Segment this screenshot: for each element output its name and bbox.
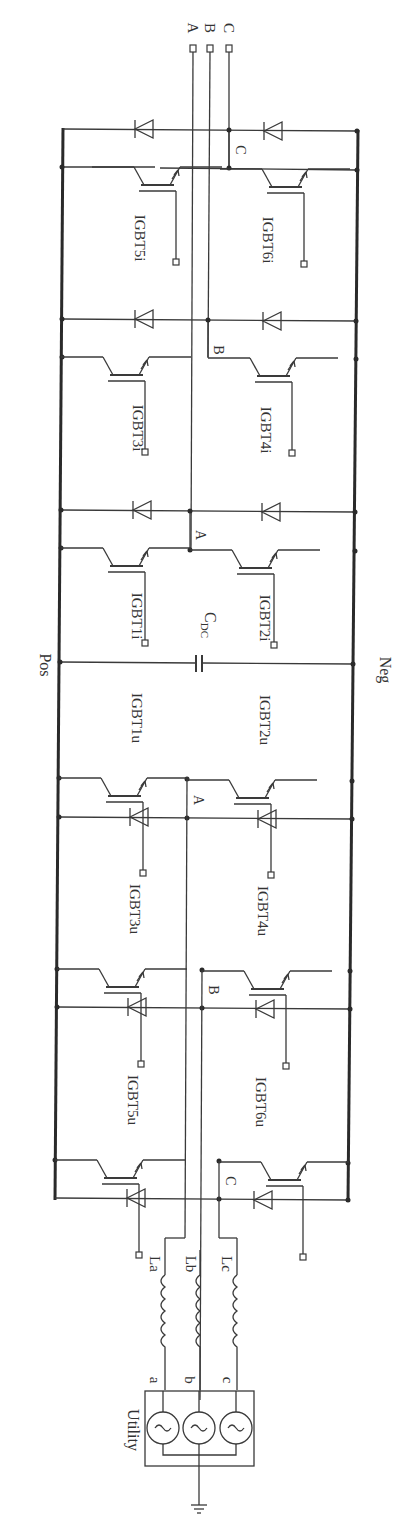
igbt-label: IGBT4i	[258, 407, 274, 454]
igbt-label: IGBT6i	[260, 217, 276, 264]
igbt-icon	[92, 167, 222, 265]
rectifier-leg-b	[55, 967, 353, 1019]
igbt-label: IGBT1i	[129, 593, 145, 640]
phase-label-b: b	[182, 1376, 198, 1384]
igbt-label: IGBT1u	[129, 693, 145, 743]
terminal-b[interactable]	[207, 45, 213, 52]
utility-source	[145, 1391, 254, 1505]
inductor-lc	[233, 1275, 237, 1390]
terminal-label-b: B	[202, 23, 218, 33]
terminal-c[interactable]	[226, 45, 232, 52]
inductor-label-la: La	[147, 1256, 163, 1272]
igbt-label: IGBT3u	[127, 884, 143, 934]
igbt-label: IGBT3i	[130, 405, 146, 452]
node-label-c-rect: C	[223, 1176, 238, 1185]
inductor-label-lc: Lc	[219, 1256, 235, 1272]
capacitor-label: CDC	[199, 612, 219, 638]
node-label-b-rect: B	[206, 985, 221, 994]
node-label-a-inv: A	[193, 530, 208, 541]
phase-label-c: c	[220, 1377, 236, 1384]
inductor-la	[161, 1275, 165, 1390]
igbt-label: IGBT6u	[253, 1077, 269, 1127]
phase-label-a: a	[147, 1377, 163, 1384]
igbt-label: IGBT5i	[132, 215, 148, 262]
inverter-leg-a	[59, 501, 358, 554]
terminal-label-a: A	[185, 23, 201, 34]
igbt-label: IGBT2u	[257, 695, 273, 745]
node-label-b-inv: B	[211, 345, 226, 354]
neg-rail-label: Neg	[376, 657, 394, 684]
converter-schematic: A B C C B A IGBT5i IGBT6i IGBT3i IGBT4i …	[0, 0, 401, 1522]
pos-rail-label: Pos	[37, 653, 54, 676]
inductor-lb	[196, 1275, 200, 1390]
output-lines	[190, 45, 232, 549]
node-label-c-inv: C	[233, 145, 248, 154]
inverter-leg-b	[60, 310, 359, 362]
utility-label: Utility	[124, 1409, 142, 1451]
igbt-label: IGBT5u	[125, 1075, 141, 1125]
inductor-label-lb: Lb	[183, 1256, 199, 1273]
node-label-a-rect: A	[191, 795, 206, 806]
terminal-label-c: C	[221, 23, 237, 33]
ground-icon	[191, 1505, 207, 1513]
terminal-a[interactable]	[190, 45, 196, 52]
igbt-label: IGBT2i	[257, 595, 273, 642]
igbt-icon	[220, 169, 350, 267]
igbt-label: IGBT4u	[255, 886, 271, 936]
dc-capacitor	[58, 655, 356, 672]
